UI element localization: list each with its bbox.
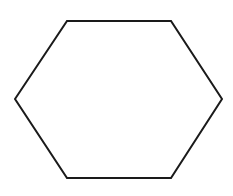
drawing-canvas	[0, 0, 233, 196]
hexagon-figure	[0, 0, 233, 196]
hexagon-outline	[15, 21, 222, 178]
